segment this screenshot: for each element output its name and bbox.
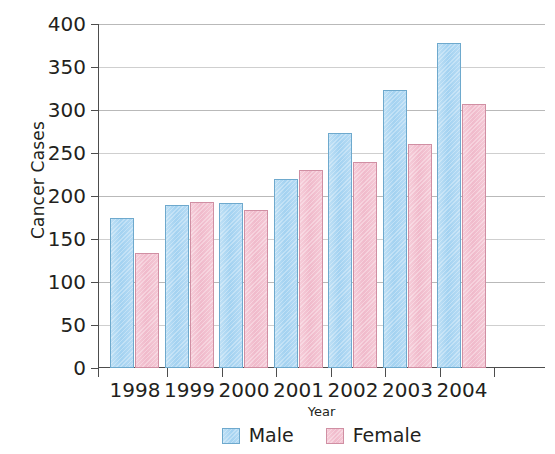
bar-male-2003	[383, 90, 407, 368]
bar-female-2001	[299, 170, 323, 368]
bar-male-2001	[274, 179, 298, 368]
legend-item-male[interactable]: Male	[222, 426, 294, 445]
x-tick-label-2004: 2004	[437, 380, 488, 400]
y-tick-label: 150	[48, 229, 86, 249]
chart-legend: MaleFemale	[98, 426, 545, 445]
bar-female-1998	[135, 253, 159, 368]
bar-chart: Cancer Cases 050100150200250300350400 19…	[0, 0, 555, 454]
y-tick-label: 350	[48, 57, 86, 77]
x-tick-mark	[385, 368, 386, 377]
y-tick-label: 300	[48, 100, 86, 120]
male-swatch	[222, 428, 240, 444]
x-axis-title: Year	[98, 404, 545, 419]
legend-label: Male	[249, 426, 294, 445]
bar-female-2002	[353, 162, 377, 368]
x-tick-label-2002: 2002	[328, 380, 379, 400]
female-swatch	[326, 428, 344, 444]
bar-male-2002	[328, 133, 352, 368]
x-tick-label-2000: 2000	[219, 380, 270, 400]
bar-male-2004	[437, 43, 461, 368]
y-tick-label: 100	[48, 272, 86, 292]
bar-male-2000	[219, 203, 243, 368]
bars-layer	[98, 24, 545, 368]
x-tick-mark	[331, 368, 332, 377]
x-tick-label-2001: 2001	[273, 380, 324, 400]
bar-female-1999	[190, 202, 214, 368]
x-tick-mark	[98, 368, 99, 377]
x-tick-mark	[494, 368, 495, 377]
x-tick-label-2003: 2003	[382, 380, 433, 400]
x-tick-mark	[167, 368, 168, 377]
y-tick-label: 0	[73, 358, 86, 378]
legend-label: Female	[353, 426, 422, 445]
bar-female-2003	[408, 144, 432, 368]
bar-female-2004	[462, 104, 486, 368]
bar-male-1998	[110, 218, 134, 369]
y-tick-label: 50	[61, 315, 86, 335]
y-axis-title: Cancer Cases	[28, 80, 48, 280]
bar-female-2000	[244, 210, 268, 368]
x-tick-label-1998: 1998	[110, 380, 161, 400]
plot-area: 050100150200250300350400 199819992000200…	[98, 24, 545, 368]
y-tick-label: 250	[48, 143, 86, 163]
bar-male-1999	[165, 205, 189, 368]
x-tick-label-1999: 1999	[164, 380, 215, 400]
y-tick-label: 400	[48, 14, 86, 34]
x-tick-mark	[276, 368, 277, 377]
x-tick-mark	[222, 368, 223, 377]
x-tick-mark	[440, 368, 441, 377]
legend-item-female[interactable]: Female	[326, 426, 422, 445]
y-tick-label: 200	[48, 186, 86, 206]
